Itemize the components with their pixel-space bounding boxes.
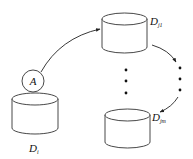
database-target-last: Djm (105, 109, 167, 148)
agent-label: A (29, 75, 37, 87)
database-label: Djm (151, 111, 167, 124)
database-label: Di (28, 142, 39, 155)
ellipsis-dots-icon (179, 67, 182, 92)
database-target-first: Dj1 (102, 13, 163, 53)
migration-arrow-icon (41, 29, 100, 72)
ellipsis-dots-icon (125, 69, 128, 95)
migration-diagram: A Di Dj1 Djm (0, 0, 193, 159)
migration-arrow-icon (160, 97, 178, 112)
database-source: Di (12, 93, 58, 155)
migration-arrow-icon (152, 45, 176, 62)
database-label: Dj1 (149, 15, 163, 28)
agent-node: A (22, 70, 44, 92)
